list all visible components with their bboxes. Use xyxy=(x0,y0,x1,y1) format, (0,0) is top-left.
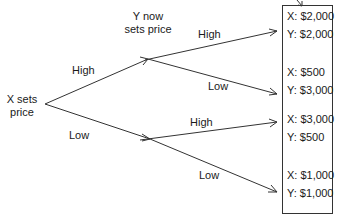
y-branch-low-label-2: Low xyxy=(199,169,219,182)
root-label-line2: price xyxy=(5,106,39,119)
outcome-3-x-payoff: X: $3,000 xyxy=(287,113,334,126)
outcome-3-y-payoff: Y: $500 xyxy=(287,131,324,144)
outcome-1-x-payoff: X: $2,000 xyxy=(287,10,334,23)
second-mover-line2: sets price xyxy=(118,23,178,36)
x-branch-high-label: High xyxy=(72,64,95,77)
outcome-2-x-payoff: X: $500 xyxy=(287,66,325,79)
outcome-2-y-payoff: Y: $3,000 xyxy=(287,84,334,97)
root-label-line1: X sets xyxy=(5,93,39,106)
edge-y-low-2 xyxy=(150,139,277,192)
y-branch-high-label-1: High xyxy=(198,28,221,41)
second-mover-line1: Y now xyxy=(118,10,178,23)
edge-x-low xyxy=(45,104,150,139)
arrowhead-icon xyxy=(269,88,277,95)
root-node-label: X sets price xyxy=(5,93,39,119)
x-branch-low-label: Low xyxy=(69,129,89,142)
y-branch-high-label-2: High xyxy=(190,116,213,129)
second-mover-label: Y now sets price xyxy=(118,10,178,36)
edge-x-high xyxy=(45,59,148,104)
outcome-4-x-payoff: X: $1,000 xyxy=(287,169,334,182)
y-branch-low-label-1: Low xyxy=(208,80,228,93)
outcome-1-y-payoff: Y: $2,000 xyxy=(287,28,334,41)
game-tree-diagram: X sets price Y now sets price High Low H… xyxy=(0,0,341,222)
outcome-4-y-payoff: Y: $1,000 xyxy=(287,187,334,200)
